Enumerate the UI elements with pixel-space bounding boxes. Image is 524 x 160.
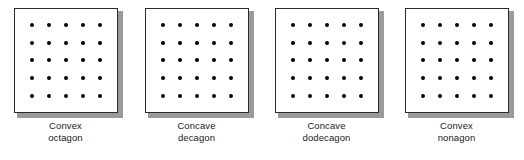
dot-cell[interactable]	[483, 16, 500, 34]
dot-cell[interactable]	[318, 16, 335, 34]
dot-cell[interactable]	[75, 16, 92, 34]
dot-cell[interactable]	[431, 52, 448, 70]
dot-cell[interactable]	[57, 87, 74, 105]
dot-cell[interactable]	[448, 34, 465, 52]
dot-cell[interactable]	[206, 69, 223, 87]
dot-cell[interactable]	[284, 69, 301, 87]
dot-cell[interactable]	[301, 87, 318, 105]
dot-cell[interactable]	[57, 52, 74, 70]
dot-cell[interactable]	[414, 69, 431, 87]
dot-cell[interactable]	[284, 87, 301, 105]
dot-cell[interactable]	[92, 34, 109, 52]
dot-cell[interactable]	[336, 52, 353, 70]
dot-cell[interactable]	[223, 34, 240, 52]
dot-cell[interactable]	[483, 69, 500, 87]
dot-cell[interactable]	[188, 34, 205, 52]
dot-cell[interactable]	[75, 52, 92, 70]
dot-cell[interactable]	[171, 16, 188, 34]
dot-cell[interactable]	[23, 69, 40, 87]
dot-cell[interactable]	[353, 87, 370, 105]
dot-cell[interactable]	[466, 16, 483, 34]
dot-cell[interactable]	[206, 16, 223, 34]
dot-cell[interactable]	[431, 69, 448, 87]
dot-cell[interactable]	[301, 34, 318, 52]
dot-cell[interactable]	[23, 87, 40, 105]
dot-cell[interactable]	[23, 34, 40, 52]
dot-cell[interactable]	[466, 34, 483, 52]
dot-cell[interactable]	[23, 16, 40, 34]
dot-cell[interactable]	[40, 16, 57, 34]
dot-cell[interactable]	[40, 34, 57, 52]
dot-cell[interactable]	[154, 69, 171, 87]
dot-cell[interactable]	[92, 69, 109, 87]
dot-cell[interactable]	[431, 87, 448, 105]
dot-cell[interactable]	[414, 34, 431, 52]
dot-cell[interactable]	[206, 52, 223, 70]
dot-cell[interactable]	[431, 16, 448, 34]
dot-grid-box[interactable]	[145, 8, 249, 113]
dot-cell[interactable]	[301, 16, 318, 34]
dot-cell[interactable]	[448, 87, 465, 105]
dot-cell[interactable]	[318, 52, 335, 70]
dot-grid-box[interactable]	[275, 8, 379, 113]
dot-cell[interactable]	[336, 34, 353, 52]
dot-cell[interactable]	[318, 87, 335, 105]
dot-cell[interactable]	[23, 52, 40, 70]
dot-cell[interactable]	[154, 16, 171, 34]
dot-cell[interactable]	[318, 69, 335, 87]
dot-cell[interactable]	[353, 69, 370, 87]
dot-cell[interactable]	[57, 69, 74, 87]
dot-cell[interactable]	[57, 34, 74, 52]
dot-cell[interactable]	[284, 52, 301, 70]
dot-cell[interactable]	[301, 69, 318, 87]
dot-cell[interactable]	[318, 34, 335, 52]
dot-cell[interactable]	[284, 16, 301, 34]
dot-cell[interactable]	[223, 52, 240, 70]
dot-cell[interactable]	[188, 69, 205, 87]
dot-cell[interactable]	[40, 69, 57, 87]
dot-cell[interactable]	[75, 69, 92, 87]
dot-cell[interactable]	[353, 34, 370, 52]
dot-cell[interactable]	[92, 87, 109, 105]
dot-cell[interactable]	[414, 16, 431, 34]
dot-cell[interactable]	[336, 16, 353, 34]
dot-cell[interactable]	[448, 69, 465, 87]
dot-cell[interactable]	[353, 52, 370, 70]
dot-cell[interactable]	[57, 16, 74, 34]
dot-cell[interactable]	[483, 52, 500, 70]
dot-cell[interactable]	[188, 87, 205, 105]
dot-cell[interactable]	[75, 34, 92, 52]
dot-cell[interactable]	[188, 52, 205, 70]
dot-cell[interactable]	[466, 69, 483, 87]
dot-cell[interactable]	[75, 87, 92, 105]
dot-grid-box[interactable]	[14, 8, 118, 113]
dot-cell[interactable]	[483, 34, 500, 52]
dot-cell[interactable]	[414, 52, 431, 70]
dot-cell[interactable]	[466, 87, 483, 105]
dot-cell[interactable]	[40, 87, 57, 105]
dot-cell[interactable]	[206, 87, 223, 105]
dot-cell[interactable]	[353, 16, 370, 34]
dot-cell[interactable]	[154, 52, 171, 70]
dot-cell[interactable]	[284, 34, 301, 52]
dot-cell[interactable]	[448, 16, 465, 34]
dot-cell[interactable]	[92, 52, 109, 70]
dot-cell[interactable]	[336, 87, 353, 105]
dot-cell[interactable]	[40, 52, 57, 70]
dot-cell[interactable]	[92, 16, 109, 34]
dot-cell[interactable]	[448, 52, 465, 70]
dot-cell[interactable]	[414, 87, 431, 105]
dot-cell[interactable]	[223, 69, 240, 87]
dot-cell[interactable]	[171, 69, 188, 87]
dot-cell[interactable]	[336, 69, 353, 87]
dot-cell[interactable]	[171, 34, 188, 52]
dot-cell[interactable]	[206, 34, 223, 52]
dot-cell[interactable]	[431, 34, 448, 52]
dot-cell[interactable]	[171, 52, 188, 70]
dot-cell[interactable]	[154, 34, 171, 52]
dot-cell[interactable]	[223, 16, 240, 34]
dot-cell[interactable]	[188, 16, 205, 34]
dot-cell[interactable]	[154, 87, 171, 105]
dot-cell[interactable]	[301, 52, 318, 70]
dot-grid-box[interactable]	[405, 8, 509, 113]
